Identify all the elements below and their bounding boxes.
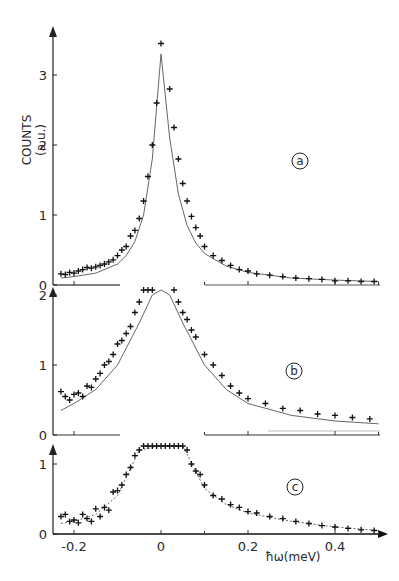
data-point-plus-icon — [188, 213, 194, 219]
data-point-plus-icon — [219, 373, 225, 379]
data-point-plus-icon — [202, 352, 208, 358]
data-point-plus-icon — [128, 465, 134, 471]
data-point-plus-icon — [123, 331, 129, 337]
data-point-plus-icon — [293, 275, 299, 281]
data-point-plus-icon — [71, 391, 77, 397]
panel-c-y-arrow-icon — [49, 444, 57, 455]
data-point-plus-icon — [306, 521, 312, 527]
data-point-plus-icon — [367, 416, 373, 422]
data-point-plus-icon — [171, 287, 177, 293]
data-point-plus-icon — [67, 397, 73, 403]
data-point-plus-icon — [184, 317, 190, 323]
data-point-plus-icon — [115, 253, 121, 259]
data-point-plus-icon — [345, 278, 351, 284]
data-point-plus-icon — [210, 493, 216, 499]
data-point-plus-icon — [88, 265, 94, 271]
x-axis-title: ħω(meV) — [265, 550, 320, 564]
data-point-plus-icon — [297, 408, 303, 414]
y-tick-label: 1 — [39, 358, 47, 373]
data-point-plus-icon — [280, 405, 286, 411]
y-tick-label: 2 — [39, 288, 47, 303]
data-point-plus-icon — [93, 264, 99, 270]
panel-b-label: b — [290, 364, 298, 378]
data-point-plus-icon — [245, 396, 251, 402]
y-axis-title-line1: COUNTS — [20, 115, 34, 166]
data-point-plus-icon — [75, 390, 81, 396]
x-tick-label: -0.2 — [61, 539, 86, 554]
data-point-plus-icon — [106, 359, 112, 365]
data-point-plus-icon — [115, 341, 121, 347]
data-point-plus-icon — [62, 394, 68, 400]
data-point-plus-icon — [88, 518, 94, 524]
data-point-plus-icon — [97, 370, 103, 376]
y-tick-label: 3 — [39, 68, 47, 83]
data-point-plus-icon — [262, 401, 268, 407]
fit-curves-layer — [61, 54, 379, 531]
data-point-plus-icon — [80, 511, 86, 517]
data-point-plus-icon — [67, 518, 73, 524]
data-point-plus-icon — [115, 488, 121, 494]
data-point-plus-icon — [280, 274, 286, 280]
data-point-plus-icon — [345, 525, 351, 531]
data-point-plus-icon — [167, 86, 173, 92]
data-point-plus-icon — [236, 504, 242, 510]
data-point-plus-icon — [236, 390, 242, 396]
y-tick-label: 0 — [39, 428, 47, 443]
data-point-plus-icon — [93, 376, 99, 382]
data-point-plus-icon — [267, 272, 273, 278]
panel-c-label: c — [292, 480, 299, 494]
data-point-plus-icon — [332, 524, 338, 530]
data-point-plus-icon — [293, 518, 299, 524]
chart-figure: 012301201-0.200.20.4 COUNTS (a.u.) ħω(me… — [0, 0, 399, 581]
data-point-plus-icon — [280, 516, 286, 522]
data-point-plus-icon — [136, 299, 142, 305]
fit-curve — [61, 290, 379, 424]
data-point-plus-icon — [101, 362, 107, 368]
data-point-plus-icon — [180, 310, 186, 316]
data-point-plus-icon — [349, 415, 355, 421]
data-point-plus-icon — [171, 125, 177, 131]
data-point-plus-icon — [315, 411, 321, 417]
data-point-plus-icon — [149, 287, 155, 293]
data-point-plus-icon — [202, 482, 208, 488]
x-tick-label: 0.4 — [325, 539, 346, 554]
data-point-plus-icon — [123, 244, 129, 250]
data-point-plus-icon — [184, 198, 190, 204]
data-point-plus-icon — [123, 472, 129, 478]
fit-curve — [61, 446, 379, 531]
data-point-plus-icon — [58, 271, 64, 277]
data-point-plus-icon — [236, 267, 242, 273]
panel-a-label: a — [296, 154, 303, 168]
labels-layer: COUNTS (a.u.) ħω(meV) a b c — [20, 115, 321, 564]
x-tick-label: 0 — [157, 539, 165, 554]
data-point-plus-icon — [106, 507, 112, 513]
data-point-plus-icon — [132, 310, 138, 316]
data-point-plus-icon — [101, 504, 107, 510]
data-point-plus-icon — [71, 517, 77, 523]
x-tick-label: 0.2 — [238, 539, 259, 554]
data-point-plus-icon — [154, 100, 160, 106]
data-point-plus-icon — [175, 156, 181, 162]
data-point-plus-icon — [319, 276, 325, 282]
data-point-plus-icon — [188, 327, 194, 333]
data-point-plus-icon — [188, 461, 194, 467]
data-point-plus-icon — [358, 279, 364, 285]
y-tick-label: 0 — [39, 527, 47, 542]
axes-layer — [49, 26, 388, 538]
data-point-plus-icon — [88, 384, 94, 390]
data-point-plus-icon — [80, 394, 86, 400]
data-point-plus-icon — [119, 247, 125, 253]
data-point-plus-icon — [84, 383, 90, 389]
y-tick-label: 1 — [39, 457, 47, 472]
data-point-plus-icon — [306, 276, 312, 282]
data-point-plus-icon — [358, 527, 364, 533]
data-point-plus-icon — [128, 324, 134, 330]
data-point-plus-icon — [184, 447, 190, 453]
data-point-plus-icon — [267, 514, 273, 520]
data-point-plus-icon — [128, 233, 134, 239]
data-point-plus-icon — [93, 506, 99, 512]
y-axis-title-line2: (a.u.) — [34, 124, 48, 156]
data-point-plus-icon — [319, 523, 325, 529]
data-point-plus-icon — [371, 279, 377, 285]
data-point-plus-icon — [132, 453, 138, 459]
